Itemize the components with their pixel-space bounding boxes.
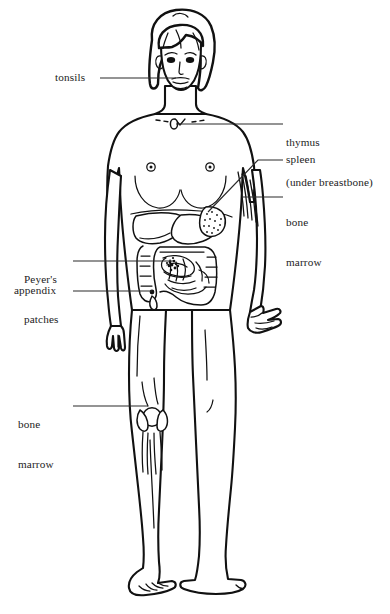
label-appendix: appendix bbox=[14, 284, 56, 297]
left-eye-icon bbox=[167, 57, 175, 63]
label-peyers-patches: Peyer's patches bbox=[24, 247, 59, 353]
anatomy-diagram: tonsils thymus (under breastbone) spleen… bbox=[0, 0, 390, 614]
left-arm bbox=[105, 170, 121, 326]
label-tonsils: tonsils bbox=[55, 71, 85, 84]
label-bone-marrow-knee: bone marrow bbox=[18, 392, 54, 498]
label-bone-marrow-arm-line2: marrow bbox=[286, 256, 322, 269]
label-peyers-patches-line2: patches bbox=[24, 313, 59, 326]
label-bone-marrow-knee-line2: marrow bbox=[18, 458, 54, 471]
label-bone-marrow-knee-line1: bone bbox=[18, 418, 54, 431]
spleen-organ bbox=[200, 207, 226, 237]
label-thymus-line2: (under breastbone) bbox=[286, 176, 373, 189]
label-bone-marrow-arm-line1: bone bbox=[286, 216, 322, 229]
label-bone-marrow-arm: bone marrow bbox=[286, 190, 322, 296]
left-hand bbox=[107, 326, 125, 351]
label-spleen: spleen bbox=[286, 153, 315, 166]
right-leg bbox=[180, 310, 245, 594]
label-thymus-line1: thymus bbox=[286, 136, 373, 149]
left-leg bbox=[129, 310, 176, 595]
appendix-marker-icon bbox=[150, 290, 155, 295]
right-eye-icon bbox=[186, 57, 194, 63]
